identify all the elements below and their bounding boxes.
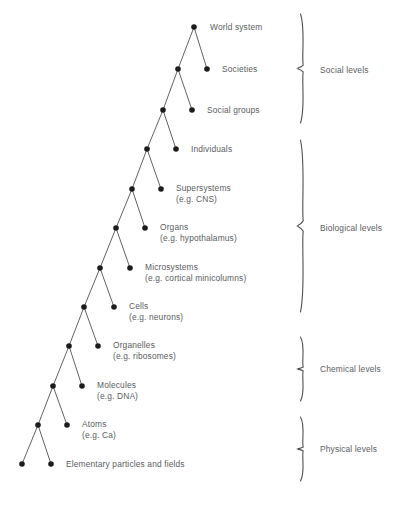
tree-edge [69,346,82,386]
tree-edge [53,386,67,425]
tree-node-organelles[interactable] [95,343,101,349]
tree-node-molecules[interactable] [79,383,85,389]
node-label-sublabel: (e.g. ribosomes) [113,351,176,362]
node-label-sublabel: (e.g. Ca) [82,430,116,441]
hierarchy-diagram: World systemSocietiesSocial groupsIndivi… [0,0,400,505]
tree-edge [38,425,51,464]
tree-node-individuals-parent[interactable] [144,146,150,152]
tree-edge [163,69,178,110]
node-label-main: Societies [222,64,257,74]
node-label-main: Atoms [82,419,107,429]
group-brace-physical-levels [297,417,303,481]
tree-edge [116,228,130,268]
node-label-main: Molecules [97,380,136,390]
tree-edge [84,307,98,346]
tree-edge [84,268,100,307]
group-label-physical-levels: Physical levels [320,444,377,454]
node-label-sublabel: (e.g. hypothalamus) [160,233,237,244]
node-label-main: Organelles [113,340,155,350]
node-label-organelles: Organelles(e.g. ribosomes) [113,340,176,361]
brace-layer [297,14,303,481]
tree-edge [100,228,116,268]
tree-node-social-groups[interactable] [189,107,195,113]
node-label-organs: Organs(e.g. hypothalamus) [160,222,237,243]
tree-edge [147,149,161,189]
tree-node-elementary-left[interactable] [19,461,25,467]
node-label-atoms: Atoms(e.g. Ca) [82,419,116,440]
tree-node-world-system[interactable] [191,24,197,30]
tree-edge [178,69,192,110]
node-label-main: Microsystems [145,262,198,272]
tree-edge [132,189,145,228]
tree-edge [163,110,176,149]
node-label-main: Supersystems [176,183,231,193]
tree-edge [38,386,53,425]
node-label-societies: Societies [222,64,257,75]
group-label-social-levels: Social levels [320,65,369,75]
node-label-world-system: World system [210,22,262,33]
node-label-main: Cells [129,301,148,311]
tree-node-atoms-parent[interactable] [35,422,41,428]
node-label-main: Social groups [207,105,260,115]
tree-edge [100,268,114,307]
tree-node-social-groups-parent[interactable] [160,107,166,113]
node-label-sublabel: (e.g. neurons) [129,312,183,323]
tree-node-cells-parent[interactable] [81,304,87,310]
node-label-supersystems: Supersystems(e.g. CNS) [176,183,231,204]
node-label-elementary-right: Elementary particles and fields [66,459,185,470]
node-label-main: Elementary particles and fields [66,459,185,469]
tree-node-elementary-right[interactable] [48,461,54,467]
tree-node-societies[interactable] [204,66,210,72]
tree-node-microsystems-parent[interactable] [97,265,103,271]
group-brace-social-levels [297,14,303,123]
tree-edge [53,346,69,386]
node-label-main: Individuals [191,144,232,154]
node-label-social-groups: Social groups [207,105,260,116]
tree-edge [69,307,84,346]
node-label-molecules: Molecules(e.g. DNA) [97,380,138,401]
tree-edge [178,27,194,69]
group-label-chemical-levels: Chemical levels [320,364,381,374]
node-label-main: World system [210,22,262,32]
tree-edge [22,425,38,464]
node-label-microsystems: Microsystems(e.g. cortical minicolumns) [145,262,246,283]
tree-node-cells[interactable] [111,304,117,310]
tree-node-organs[interactable] [142,225,148,231]
tree-edge [116,189,132,228]
tree-node-organs-parent[interactable] [113,225,119,231]
tree-edge [147,110,163,149]
node-label-sublabel: (e.g. CNS) [176,194,231,205]
group-brace-biological-levels [297,140,303,312]
tree-node-individuals[interactable] [173,146,179,152]
tree-edge [194,27,207,69]
group-label-biological-levels: Biological levels [320,223,382,233]
node-label-cells: Cells(e.g. neurons) [129,301,183,322]
tree-node-supersystems[interactable] [158,186,164,192]
tree-node-atoms[interactable] [64,422,70,428]
tree-node-societies-parent[interactable] [175,66,181,72]
tree-node-molecules-parent[interactable] [50,383,56,389]
tree-edge [132,149,147,189]
tree-node-organelles-parent[interactable] [66,343,72,349]
tree-node-supersystems-parent[interactable] [129,186,135,192]
node-label-sublabel: (e.g. cortical minicolumns) [145,273,246,284]
tree-canvas [0,0,400,505]
tree-node-microsystems[interactable] [127,265,133,271]
group-brace-chemical-levels [297,337,303,401]
node-label-sublabel: (e.g. DNA) [97,391,138,402]
node-label-individuals: Individuals [191,144,232,155]
node-label-main: Organs [160,222,188,232]
